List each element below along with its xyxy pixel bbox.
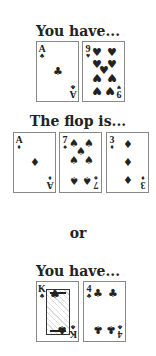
heading-you-have-2: You have... bbox=[0, 263, 156, 279]
spade-icon: ♠ bbox=[83, 155, 95, 166]
diamond-icon: ♦ bbox=[122, 139, 134, 150]
club-icon: ♣ bbox=[52, 66, 64, 77]
card-nine-of-hearts: 9♥ ♥ ♥ ♥ ♥ ♥ ♥ ♥ ♥ ♥ 9♥ bbox=[82, 41, 125, 102]
card-index: 3♦ bbox=[139, 174, 147, 190]
separator-or: or bbox=[0, 225, 156, 241]
card-index: A♦ bbox=[46, 174, 54, 190]
card-index: A♣ bbox=[38, 44, 46, 60]
card-index: 3♦ bbox=[108, 135, 116, 151]
heading-you-have-1: You have... bbox=[0, 23, 156, 39]
card-seven-of-spades: 7♠ ♠ ♠ ♠ ♠ ♠ ♠ ♠ 7♠ bbox=[59, 132, 102, 193]
card-index: 9♥ bbox=[115, 83, 123, 99]
heading-the-flop-is: The flop is... bbox=[0, 113, 156, 129]
card-king-of-clubs: K♣ ♣ ♣ K♣ bbox=[36, 281, 79, 342]
card-three-of-diamonds: 3♦ ♦ ♦ ♦ 3♦ bbox=[106, 132, 149, 193]
diamond-icon: ♦ bbox=[122, 175, 134, 186]
card-index: A♣ bbox=[69, 83, 77, 99]
card-ace-of-clubs: A♣ ♣ A♣ bbox=[36, 41, 79, 102]
club-icon: ♣ bbox=[107, 288, 119, 299]
diamond-icon: ♦ bbox=[29, 157, 41, 168]
spade-icon: ♠ bbox=[68, 175, 80, 186]
diamond-icon: ♦ bbox=[122, 157, 134, 168]
heart-icon: ♥ bbox=[106, 72, 118, 83]
heart-icon: ♥ bbox=[106, 47, 118, 58]
card-index: K♣ bbox=[38, 284, 46, 300]
card-index: A♦ bbox=[15, 135, 23, 151]
heart-icon: ♥ bbox=[91, 47, 103, 58]
club-icon: ♣ bbox=[92, 288, 104, 299]
heart-icon: ♥ bbox=[91, 85, 103, 96]
spade-icon: ♠ bbox=[68, 155, 80, 166]
card-index: K♣ bbox=[69, 323, 77, 339]
card-four-of-clubs: 4♣ ♣ ♣ ♣ ♣ 4♣ bbox=[83, 281, 126, 342]
card-index: 4♣ bbox=[116, 323, 124, 339]
card-index: 7♠ bbox=[92, 174, 100, 190]
card-ace-of-diamonds: A♦ ♦ A♦ bbox=[13, 132, 56, 193]
club-icon: ♣ bbox=[56, 324, 68, 335]
club-icon: ♣ bbox=[92, 324, 104, 335]
club-icon: ♣ bbox=[49, 289, 61, 300]
heart-icon: ♥ bbox=[91, 72, 103, 83]
